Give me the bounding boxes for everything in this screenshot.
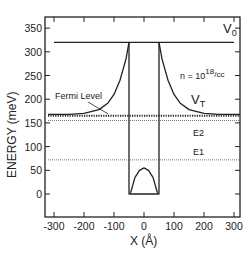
e1-label: E1 (193, 147, 204, 157)
y-tick-label: 50 (30, 164, 42, 176)
x-tick-label: 0 (141, 220, 147, 232)
x-tick-label: -100 (103, 220, 124, 232)
y-tick-label: 250 (24, 70, 42, 82)
x-tick-label: -300 (43, 220, 64, 232)
y-axis-title: ENERGY (meV) (5, 92, 19, 178)
y-tick-label: 150 (24, 117, 42, 129)
series-vt (48, 42, 240, 114)
plot-border (45, 17, 240, 217)
x-tick-label: -200 (73, 220, 94, 232)
data-curves (48, 42, 240, 194)
fermi-level-label: Fermi Level (55, 91, 102, 101)
x-tick-label: 300 (225, 220, 243, 232)
y-tick-label: 100 (24, 141, 42, 153)
plot-frame (45, 17, 240, 217)
density-label: n = 1018/cc (180, 67, 224, 81)
x-tick-label: 200 (195, 220, 213, 232)
axis-ticks: -300-200-1000100200300050100150200250300… (24, 17, 242, 232)
e2-label: E2 (193, 128, 204, 138)
y-tick-label: 200 (24, 93, 42, 105)
energy-band-chart: -300-200-1000100200300050100150200250300… (0, 0, 252, 258)
v0-label: V0 (223, 21, 237, 38)
y-tick-label: 300 (24, 46, 42, 58)
x-axis-title: X (Å) (130, 233, 157, 248)
vt-label: VT (191, 92, 206, 109)
x-tick-label: 100 (165, 220, 183, 232)
series-hartree-bump (131, 168, 158, 193)
y-tick-label: 0 (36, 188, 42, 200)
series-well (129, 42, 159, 194)
y-tick-label: 350 (24, 22, 42, 34)
